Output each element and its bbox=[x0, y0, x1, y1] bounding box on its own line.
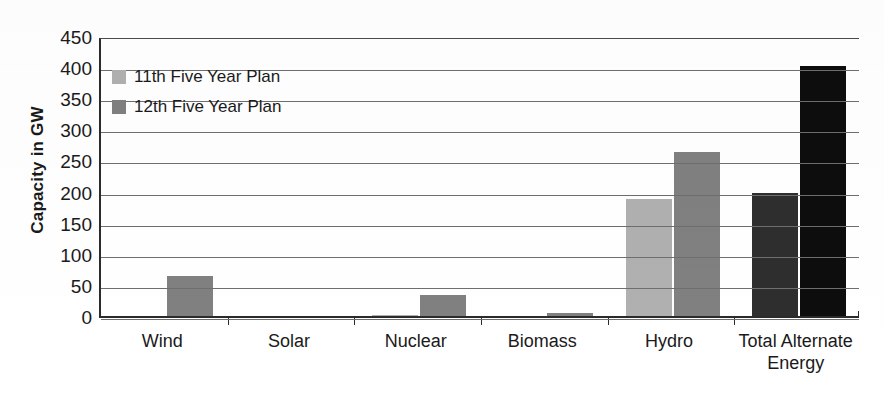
bar-chart: Capacity in GW 4504003503002502001501005… bbox=[0, 0, 884, 401]
y-tick-label: 300 bbox=[0, 121, 92, 140]
bar[interactable] bbox=[420, 295, 466, 318]
bar[interactable] bbox=[752, 193, 798, 318]
bar-group bbox=[354, 39, 481, 318]
x-tick-label: Wind bbox=[99, 330, 226, 352]
y-tick-label: 400 bbox=[0, 59, 92, 78]
gridline bbox=[101, 319, 859, 320]
gridline bbox=[101, 226, 859, 227]
y-tick-label: 100 bbox=[0, 246, 92, 265]
x-tick-label: Biomass bbox=[479, 330, 606, 352]
x-tick-label: Total Alternate Energy bbox=[732, 330, 859, 374]
x-tick-label: Hydro bbox=[606, 330, 733, 352]
legend-label: 12th Five Year Plan bbox=[134, 98, 281, 115]
y-tick-label: 150 bbox=[0, 215, 92, 234]
x-tick-label: Solar bbox=[226, 330, 353, 352]
chart-legend: 11th Five Year Plan12th Five Year Plan bbox=[112, 68, 281, 115]
bar-group bbox=[734, 39, 861, 318]
y-tick-label: 50 bbox=[0, 277, 92, 296]
legend-item[interactable]: 12th Five Year Plan bbox=[112, 98, 281, 115]
y-tick-label: 350 bbox=[0, 90, 92, 109]
legend-swatch-icon bbox=[112, 70, 126, 84]
y-tick-label: 200 bbox=[0, 184, 92, 203]
bar-group bbox=[608, 39, 735, 318]
y-tick-label: 0 bbox=[0, 308, 92, 327]
x-tick-label: Nuclear bbox=[352, 330, 479, 352]
x-axis-tick-labels: WindSolarNuclearBiomassHydroTotal Altern… bbox=[99, 330, 859, 390]
x-axis-line bbox=[101, 316, 859, 318]
bar[interactable] bbox=[674, 152, 720, 318]
legend-label: 11th Five Year Plan bbox=[134, 68, 280, 85]
gridline bbox=[101, 195, 859, 196]
x-axis-right-tick bbox=[858, 311, 859, 318]
y-tick-label: 250 bbox=[0, 152, 92, 171]
bar-group bbox=[481, 39, 608, 318]
y-tick-label: 450 bbox=[0, 28, 92, 47]
legend-swatch-icon bbox=[112, 100, 126, 114]
gridline bbox=[101, 163, 859, 164]
gridline bbox=[101, 288, 859, 289]
gridline bbox=[101, 257, 859, 258]
y-axis-tick-labels: 450400350300250200150100500 bbox=[0, 0, 92, 401]
bar[interactable] bbox=[800, 66, 846, 318]
gridline bbox=[101, 132, 859, 133]
bar[interactable] bbox=[626, 199, 672, 318]
legend-item[interactable]: 11th Five Year Plan bbox=[112, 68, 281, 85]
bar[interactable] bbox=[167, 276, 213, 318]
